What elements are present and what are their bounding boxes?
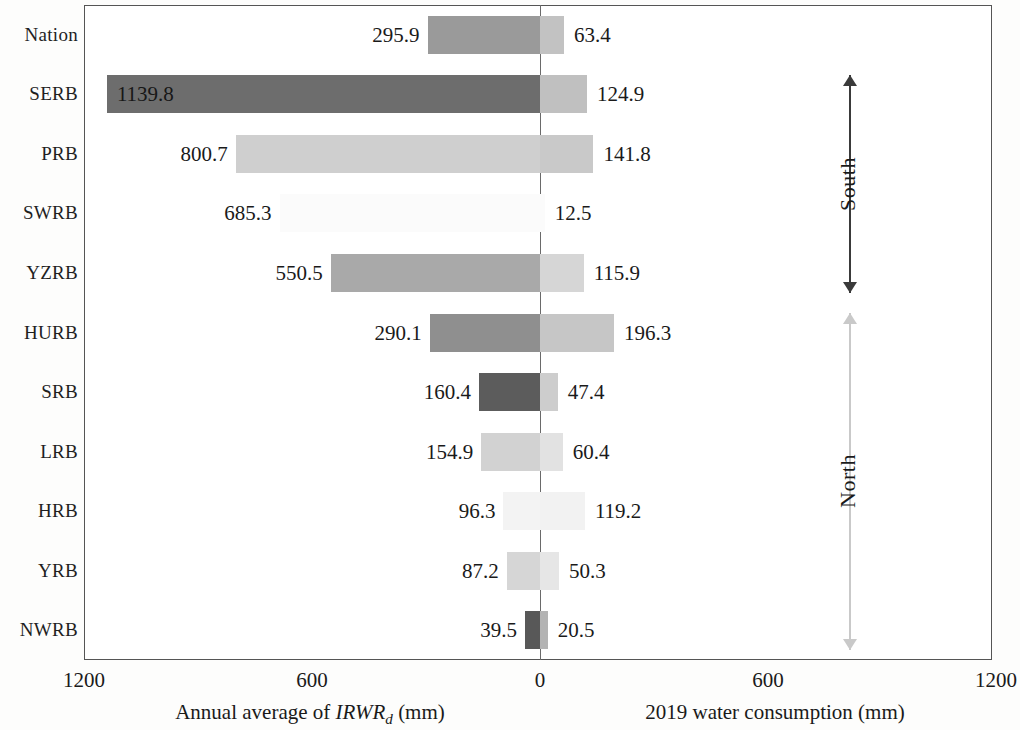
left-axis-title-prefix: Annual average of	[175, 700, 335, 724]
bar-right-value-label: 20.5	[558, 618, 595, 643]
left-axis-title-suffix: (mm)	[393, 700, 445, 724]
bar-right-consumption	[540, 552, 559, 590]
bar-left-value-label: 550.5	[193, 260, 323, 285]
bar-right-value-label: 60.4	[573, 439, 610, 464]
bar-right-consumption	[540, 254, 584, 292]
bar-left-irwr	[331, 254, 540, 292]
bar-right-value-label: 141.8	[603, 141, 650, 166]
north-arrow-head-up	[843, 313, 857, 324]
row-category-label: SERB	[29, 83, 78, 105]
bar-left-irwr	[507, 552, 540, 590]
row-category-label: SWRB	[23, 202, 78, 224]
bar-right-value-label: 124.9	[597, 82, 644, 107]
bar-left-value-label: 295.9	[290, 22, 420, 47]
bar-left-value-label: 800.7	[98, 141, 228, 166]
bar-left-value-label: 154.9	[343, 439, 473, 464]
bar-left-value-label: 160.4	[341, 380, 471, 405]
bar-right-consumption	[540, 16, 564, 54]
xtick-left-600: 600	[252, 668, 372, 693]
bar-left-value-label: 685.3	[142, 201, 272, 226]
left-axis-title-italic: IRWR	[336, 700, 386, 724]
row-category-label: YRB	[38, 560, 78, 582]
group-bracket-south: South	[820, 75, 880, 293]
bar-left-value-label: 96.3	[365, 499, 495, 524]
bar-left-irwr	[236, 135, 540, 173]
bar-right-value-label: 63.4	[574, 22, 611, 47]
bar-right-value-label: 119.2	[595, 499, 641, 524]
bar-right-consumption	[540, 194, 545, 232]
bar-right-value-label: 47.4	[568, 380, 605, 405]
bar-right-value-label: 196.3	[624, 320, 671, 345]
bar-left-irwr	[428, 16, 540, 54]
row-category-label: HRB	[38, 500, 78, 522]
bar-right-consumption	[540, 75, 587, 113]
bar-right-consumption	[540, 135, 593, 173]
bar-right-consumption	[540, 314, 614, 352]
bar-right-value-label: 50.3	[569, 558, 606, 583]
group-label-north: North	[835, 391, 861, 571]
chart-row: Nation295.963.4	[0, 5, 1020, 65]
bar-left-irwr	[280, 194, 540, 232]
bar-right-consumption	[540, 373, 558, 411]
bar-left-irwr	[503, 492, 540, 530]
bar-right-consumption	[540, 611, 548, 649]
group-bracket-north: North	[820, 313, 880, 650]
left-axis-title: Annual average of IRWRd (mm)	[80, 700, 540, 728]
group-label-south: South	[835, 94, 861, 274]
xtick-left-1200: 1200	[24, 668, 144, 693]
xtick-right-600: 600	[708, 668, 828, 693]
bar-right-consumption	[540, 433, 563, 471]
bar-right-value-label: 12.5	[555, 201, 592, 226]
bar-left-value-label: 87.2	[369, 558, 499, 583]
bar-left-irwr	[481, 433, 540, 471]
north-arrow-head-down	[843, 639, 857, 650]
diverging-bar-chart: Nation295.963.4SERB1139.8124.9PRB800.714…	[0, 0, 1020, 730]
bar-left-irwr	[479, 373, 540, 411]
row-category-label: PRB	[41, 143, 78, 165]
row-category-label: YZRB	[26, 262, 78, 284]
xtick-right-1200: 1200	[936, 668, 1020, 693]
bar-left-value-label: 1139.8	[117, 82, 174, 107]
row-category-label: NWRB	[20, 619, 78, 641]
row-category-label: LRB	[40, 441, 78, 463]
bar-left-irwr	[525, 611, 540, 649]
bar-left-value-label: 290.1	[292, 320, 422, 345]
row-category-label: HURB	[24, 322, 78, 344]
row-category-label: SRB	[41, 381, 78, 403]
south-arrow-head-down	[843, 282, 857, 293]
south-arrow-head-up	[843, 75, 857, 86]
bar-right-value-label: 115.9	[594, 260, 640, 285]
xtick-zero: 0	[480, 668, 600, 693]
left-axis-title-sub: d	[385, 711, 393, 727]
bar-left-irwr	[430, 314, 540, 352]
row-category-label: Nation	[24, 24, 78, 46]
right-axis-title: 2019 water consumption (mm)	[545, 700, 1005, 725]
bar-right-consumption	[540, 492, 585, 530]
bar-left-value-label: 39.5	[387, 618, 517, 643]
